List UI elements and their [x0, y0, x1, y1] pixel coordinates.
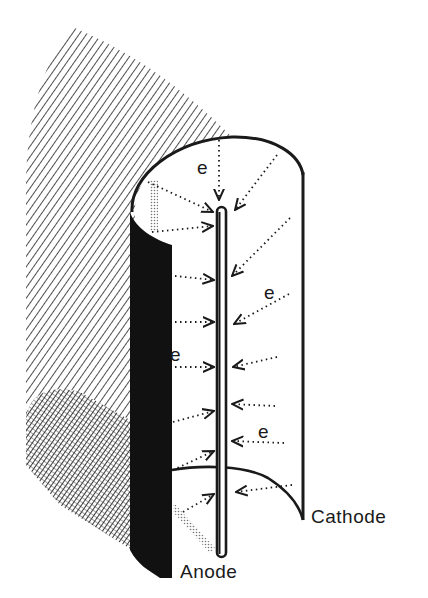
- inner-wall-shadow: [130, 212, 172, 578]
- electron-label-top: e: [197, 157, 208, 179]
- cathode-label: Cathode: [311, 506, 386, 528]
- electron-label-right-upper: e: [264, 282, 275, 304]
- anode-rod: [217, 207, 226, 557]
- stipple-bottom: [173, 502, 215, 553]
- crosshatched-lower-shadow: [26, 389, 132, 550]
- anode-label: Anode: [180, 561, 237, 583]
- stipple-top: [150, 180, 158, 232]
- electron-label-left: e: [170, 344, 181, 366]
- electron-label-right-lower: e: [258, 421, 269, 443]
